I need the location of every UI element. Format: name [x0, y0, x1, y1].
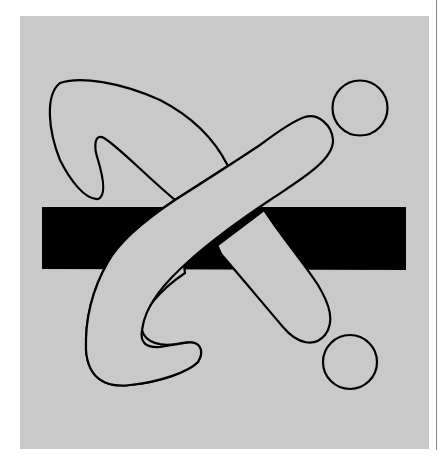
- abstract-artwork: [0, 0, 442, 463]
- right-edge-line: [436, 0, 437, 450]
